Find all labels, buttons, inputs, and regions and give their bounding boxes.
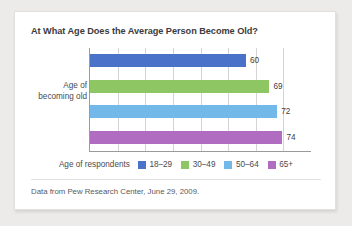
y-axis-label-line-1: Age of — [19, 81, 87, 92]
legend-swatch-icon — [181, 161, 189, 169]
chart-card: At What Age Does the Average Person Beco… — [14, 11, 336, 210]
legend-item-label: 65+ — [279, 160, 293, 169]
bar-row: 74 — [90, 131, 311, 144]
legend: Age of respondents 18–2930–4950–6465+ — [15, 160, 337, 169]
plot-area: 60697274 — [89, 48, 311, 152]
legend-item-18–29[interactable]: 18–29 — [138, 160, 172, 169]
bar-value-label: 60 — [250, 56, 259, 65]
plot-wrapper: Age of becoming old 60697274 — [15, 48, 337, 152]
bar-row: 69 — [90, 80, 311, 93]
legend-item-label: 18–29 — [149, 160, 172, 169]
bar-50–64[interactable] — [90, 105, 277, 118]
legend-title: Age of respondents — [59, 160, 130, 169]
legend-item-label: 30–49 — [193, 160, 216, 169]
bar-30–49[interactable] — [90, 80, 269, 93]
legend-items: 18–2930–4950–6465+ — [138, 160, 293, 169]
bar-value-label: 72 — [281, 107, 290, 116]
legend-item-65+[interactable]: 65+ — [268, 160, 293, 169]
legend-item-50–64[interactable]: 50–64 — [224, 160, 258, 169]
bar-value-label: 69 — [273, 82, 282, 91]
y-axis-label-line-2: becoming old — [19, 92, 87, 103]
bar-65+[interactable] — [90, 131, 282, 144]
legend-swatch-icon — [268, 161, 276, 169]
bar-18–29[interactable] — [90, 54, 246, 67]
bar-group: 60697274 — [90, 48, 311, 150]
legend-swatch-icon — [138, 161, 146, 169]
bar-row: 60 — [90, 54, 311, 67]
y-axis-label: Age of becoming old — [19, 81, 87, 102]
legend-item-label: 50–64 — [236, 160, 259, 169]
legend-swatch-icon — [224, 161, 232, 169]
source-note: Data from Pew Research Center, June 29, … — [31, 187, 199, 196]
footer-divider — [31, 179, 321, 180]
bar-value-label: 74 — [286, 133, 295, 142]
legend-item-30–49[interactable]: 30–49 — [181, 160, 215, 169]
bar-row: 72 — [90, 105, 311, 118]
page-title: At What Age Does the Average Person Beco… — [31, 26, 258, 36]
